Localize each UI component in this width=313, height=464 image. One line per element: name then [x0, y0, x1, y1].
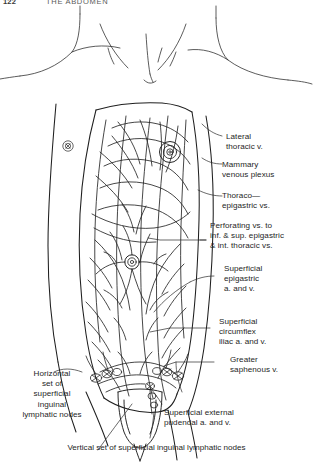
atlas-page: 122 THE ABDOMEN [0, 0, 313, 464]
umbilicus [125, 255, 139, 269]
label-superficial-circumflex-iliac: Superficial circumflex iliac a. and v. [219, 317, 266, 348]
figure-caption: Vertical set of superficial inguinal lym… [0, 443, 313, 453]
label-mammary-venous-plexus: Mammary venous plexus [222, 160, 274, 180]
label-greater-saphenous-vein: Greater saphenous v. [230, 355, 278, 375]
superficial-venous-network [86, 116, 190, 400]
leader-lateral-thoracic [202, 124, 222, 136]
label-horizontal-inguinal-nodes: Horizontal set of superficial inguinal l… [4, 369, 100, 420]
leader-perforating [148, 238, 206, 240]
leader-thoraco-epigastric [198, 190, 222, 196]
label-superficial-epigastric: Superficial epigastric a. and v. [224, 264, 262, 295]
label-thoraco-epigastric-veins: Thoraco— epigastric vs. [222, 191, 270, 211]
horizontal-node-group-right [153, 368, 184, 381]
label-lateral-thoracic-vein: Lateral thoracic v. [226, 132, 263, 152]
isolated-node-marker [63, 141, 73, 151]
leader-circumflex-iliac [150, 328, 210, 332]
neck-and-shoulders [0, 6, 312, 84]
label-perforating-veins: Perforating vs. to inf. & sup. epigastri… [210, 221, 284, 252]
leader-greater-saphenous [164, 362, 214, 366]
label-superficial-external-pudendal: Superficial external pudendal a. and v. [164, 408, 234, 428]
nipple-areola [160, 142, 181, 163]
inguinal-lymph-nodes [86, 350, 188, 414]
